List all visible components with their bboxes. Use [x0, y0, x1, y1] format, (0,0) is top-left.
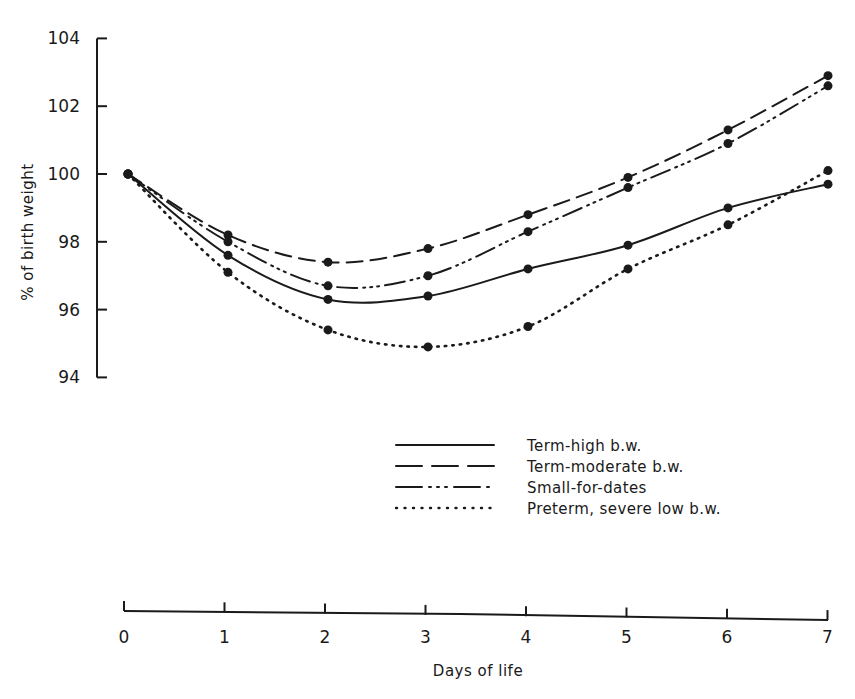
data-point: [424, 271, 433, 280]
legend-item: Term-moderate b.w.: [396, 458, 684, 476]
data-point: [724, 203, 733, 212]
y-tick-label: 102: [48, 96, 80, 116]
x-axis: 01234567: [119, 601, 833, 647]
data-point: [824, 71, 833, 80]
x-tick-label: 7: [822, 627, 833, 647]
data-point: [224, 268, 233, 277]
legend-label: Small-for-dates: [527, 479, 647, 497]
x-tick-label: 1: [219, 627, 230, 647]
x-tick-label: 2: [320, 627, 331, 647]
legend-label: Term-high b.w.: [526, 437, 642, 455]
x-tick-label: 5: [621, 627, 632, 647]
x-axis-title: Days of life: [433, 662, 523, 680]
data-point: [324, 281, 333, 290]
data-point: [624, 264, 633, 273]
x-tick-label: 4: [521, 627, 532, 647]
data-point: [724, 139, 733, 148]
y-axis-title: % of birth weight: [19, 163, 37, 300]
legend-item: Small-for-dates: [396, 479, 647, 497]
data-point: [324, 295, 333, 304]
legend-item: Term-high b.w.: [396, 437, 642, 455]
data-point: [424, 342, 433, 351]
x-tick-label: 0: [119, 627, 130, 647]
data-point: [524, 264, 533, 273]
data-point: [824, 81, 833, 90]
y-tick-label: 98: [58, 232, 80, 252]
series-dashed: [124, 71, 833, 266]
data-point: [624, 241, 633, 250]
y-tick-label: 100: [48, 164, 80, 184]
y-tick-label: 94: [58, 367, 80, 387]
data-point: [224, 237, 233, 246]
data-point: [524, 227, 533, 236]
data-point: [824, 166, 833, 175]
data-point: [324, 258, 333, 267]
data-point: [724, 125, 733, 134]
legend-label: Term-moderate b.w.: [526, 458, 684, 476]
data-point: [524, 322, 533, 331]
x-tick-label: 6: [722, 627, 733, 647]
data-point: [324, 325, 333, 334]
data-point: [624, 183, 633, 192]
legend: Term-high b.w.Term-moderate b.w.Small-fo…: [396, 437, 721, 518]
legend-label: Preterm, severe low b.w.: [527, 500, 721, 518]
data-point: [424, 292, 433, 301]
y-axis: 949698100102104: [48, 28, 107, 387]
y-tick-label: 104: [48, 28, 80, 48]
line-chart: 949698100102104 01234567 % of birth weig…: [0, 0, 855, 699]
data-point: [824, 180, 833, 189]
series-group: [124, 71, 833, 351]
legend-item: Preterm, severe low b.w.: [396, 500, 721, 518]
y-tick-label: 96: [58, 300, 80, 320]
data-point: [424, 244, 433, 253]
data-point: [624, 173, 633, 182]
x-tick-label: 3: [420, 627, 431, 647]
data-point: [124, 170, 133, 179]
data-point: [224, 251, 233, 260]
data-point: [724, 220, 733, 229]
data-point: [524, 210, 533, 219]
